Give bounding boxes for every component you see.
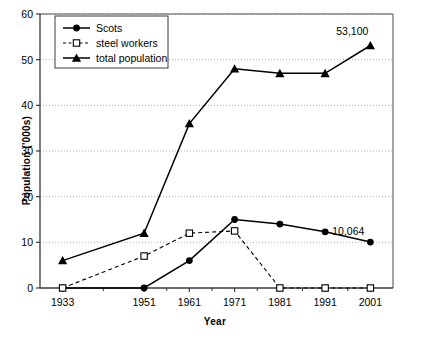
data-point-Scots <box>367 239 374 246</box>
data-point-Scots <box>322 228 329 235</box>
legend-marker-Scots <box>73 25 80 32</box>
x-tick-label: 2001 <box>359 296 383 308</box>
line-chart-canvas: 0102030405060193319511961197119811991200… <box>0 0 430 340</box>
data-point-steel-workers <box>186 230 192 236</box>
data-annotation: 53,100 <box>336 25 368 37</box>
x-tick-label: 1981 <box>268 296 292 308</box>
y-tick-label: 0 <box>27 282 33 294</box>
data-point-steel-workers <box>59 285 65 291</box>
x-tick-label: 1971 <box>223 296 247 308</box>
data-point-Scots <box>186 257 193 264</box>
series-line-steel-workers <box>63 231 371 288</box>
data-point-steel-workers <box>277 285 283 291</box>
y-tick-label: 50 <box>21 54 33 66</box>
y-tick-label: 10 <box>21 236 33 248</box>
data-point-total-population <box>366 41 375 49</box>
legend-label-total-population: total population <box>96 52 167 64</box>
data-point-Scots <box>231 216 238 223</box>
data-point-steel-workers <box>141 253 147 259</box>
x-axis-title: Year <box>0 316 430 327</box>
data-point-Scots <box>141 285 148 292</box>
data-point-steel-workers <box>367 285 373 291</box>
data-point-steel-workers <box>322 285 328 291</box>
x-tick-label: 1961 <box>178 296 202 308</box>
data-point-Scots <box>276 221 283 228</box>
x-tick-label: 1991 <box>313 296 337 308</box>
x-tick-label: 1951 <box>132 296 156 308</box>
series-line-total-population <box>63 46 371 261</box>
data-point-steel-workers <box>231 228 237 234</box>
x-tick-label: 1933 <box>51 296 75 308</box>
legend-label-steel-workers: steel workers <box>96 37 158 49</box>
chart-figure: 0102030405060193319511961197119811991200… <box>0 0 430 340</box>
data-annotation: 10,064 <box>332 225 364 237</box>
legend-marker-steel-workers <box>73 40 79 46</box>
y-axis-title: Population ('000s) <box>21 91 32 231</box>
y-tick-label: 60 <box>21 8 33 20</box>
data-point-total-population <box>139 229 148 237</box>
legend-label-Scots: Scots <box>96 22 122 34</box>
